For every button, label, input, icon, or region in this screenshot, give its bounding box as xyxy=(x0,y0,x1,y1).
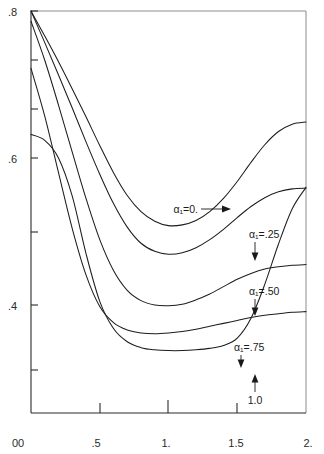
x-tick-label-0.5: .5 xyxy=(91,437,100,449)
annotation-label-alpha-025: α₁=.25 xyxy=(249,228,280,240)
annotation-label-alpha-100: 1.0 xyxy=(248,394,263,406)
annotation-alpha-100: 1.0 xyxy=(248,374,263,406)
x-tick-label-2.0: 2. xyxy=(303,437,312,449)
plot-frame xyxy=(31,11,306,413)
curve-group xyxy=(31,11,306,351)
y-tick-label-0.6: .6 xyxy=(8,153,17,165)
annotation-alpha-0: α₁=0. xyxy=(173,203,231,215)
curve-alpha-0 xyxy=(31,11,306,226)
annotation-alpha-075: α₁=.75 xyxy=(234,341,265,368)
line-chart: .8 .6 .4 0 0 .5 1. 1.5 2. α₁=0. α₁=.25 xyxy=(0,0,324,454)
annotation-arrowhead-alpha-075 xyxy=(238,360,245,369)
curve-alpha-1.0 xyxy=(31,134,306,350)
y-axis-ticks xyxy=(31,11,38,370)
plot-axes xyxy=(31,11,306,413)
annotation-label-alpha-075: α₁=.75 xyxy=(234,341,265,353)
y-tick-label-0.8: .8 xyxy=(8,6,17,18)
annotation-alpha-025: α₁=.25 xyxy=(249,228,280,261)
annotation-arrowhead-alpha-025 xyxy=(252,253,259,262)
y-tick-label-0.4: .4 xyxy=(8,300,17,312)
annotation-label-alpha-050: α₁=.50 xyxy=(249,285,280,297)
x-tick-label-1.5: 1.5 xyxy=(228,437,243,449)
curve-alpha-0.25 xyxy=(31,11,306,254)
x-axis-ticks xyxy=(100,400,237,413)
annotation-label-alpha-0: α₁=0. xyxy=(173,203,198,215)
chart-figure: .8 .6 .4 0 0 .5 1. 1.5 2. α₁=0. α₁=.25 xyxy=(0,0,324,454)
x-tick-label-1.0: 1. xyxy=(161,437,170,449)
annotation-arrowhead-alpha-0 xyxy=(222,206,231,213)
x-tick-label-0: 0 xyxy=(18,437,24,449)
annotation-alpha-050: α₁=.50 xyxy=(249,285,280,316)
curve-alpha-0.50 xyxy=(31,21,306,306)
